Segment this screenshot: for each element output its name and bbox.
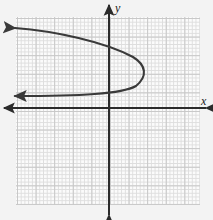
graph-figure: x y	[0, 0, 213, 220]
x-axis-label: x	[201, 95, 206, 107]
parabola-curve	[15, 28, 144, 96]
y-axis-label: y	[115, 2, 120, 14]
graph-vector-layer	[0, 0, 213, 220]
